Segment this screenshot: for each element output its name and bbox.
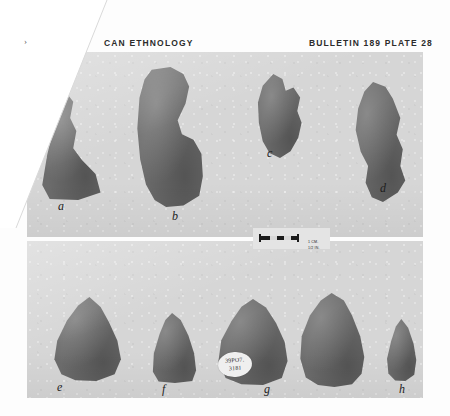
- specimen-f: [150, 313, 198, 383]
- catalog-number-line-1: 39PO7.: [218, 356, 252, 364]
- caption-g: g: [264, 383, 270, 395]
- running-head-right: BULLETIN 189 PLATE 28: [309, 38, 433, 48]
- scanned-plate-page: CAN ETHNOLOGY BULLETIN 189 PLATE 28 a b …: [0, 0, 450, 416]
- specimen-d: [347, 82, 409, 202]
- caption-b: b: [172, 210, 178, 222]
- scale-bar-segment-1: [261, 236, 270, 240]
- caption-h: h: [399, 383, 405, 395]
- scale-bar-label-cm: 1 CM.: [308, 240, 318, 244]
- scale-bar: 1 CM. 1/2 IN.: [253, 228, 330, 249]
- corner-pen-mark: ›: [24, 36, 27, 46]
- specimen-c: [256, 74, 304, 158]
- scale-bar-graphic: 1 CM. 1/2 IN.: [259, 234, 299, 242]
- specimen-unlabeled: [299, 293, 367, 387]
- running-head-left: CAN ETHNOLOGY: [104, 38, 194, 48]
- scale-bar-label-in: 1/2 IN.: [308, 246, 320, 250]
- scale-bar-segment-4: [284, 236, 291, 240]
- caption-f: f: [162, 383, 165, 395]
- scale-bar-segment-3: [277, 236, 284, 240]
- caption-d: d: [380, 182, 386, 194]
- caption-a: a: [58, 200, 64, 212]
- specimen-h: [385, 319, 419, 381]
- specimen-b: [133, 67, 205, 207]
- catalog-number-line-2: 3181: [218, 364, 252, 372]
- scale-bar-cap-right: [297, 234, 299, 242]
- scale-bar-segment-2: [270, 236, 277, 240]
- specimen-e: [53, 297, 123, 381]
- caption-e: e: [57, 381, 62, 393]
- caption-c: c: [267, 147, 272, 159]
- photo-plate-a: [27, 52, 423, 237]
